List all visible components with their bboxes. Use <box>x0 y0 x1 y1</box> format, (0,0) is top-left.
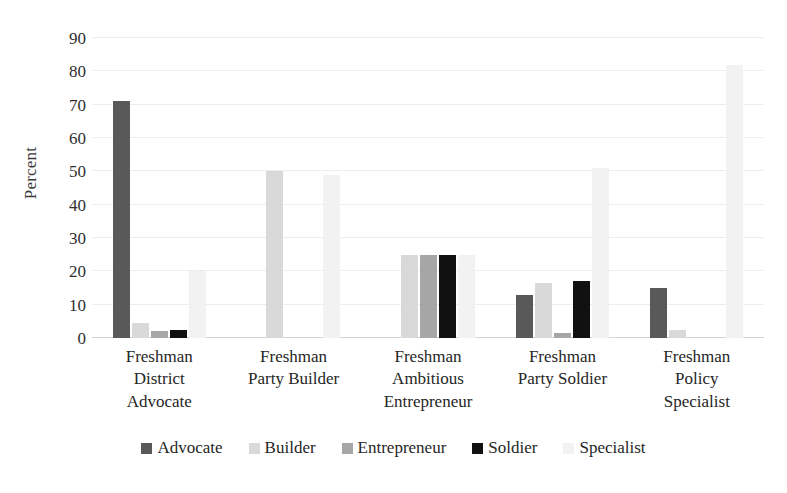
bar-slot <box>189 38 206 338</box>
y-axis-tick-label: 90 <box>69 30 86 47</box>
bar-builder[interactable] <box>132 323 149 338</box>
y-axis-tick-label: 80 <box>69 63 86 80</box>
legend-item-label: Advocate <box>157 438 222 458</box>
bar-slot <box>132 38 149 338</box>
bar-slot <box>382 38 399 338</box>
legend-item-specialist[interactable]: Specialist <box>563 438 645 458</box>
x-axis-category-label: FreshmanAmbitiousEntrepreneur <box>361 346 495 413</box>
bar-soldier[interactable] <box>170 330 187 338</box>
y-axis-tick-label: 10 <box>69 296 86 313</box>
bar-builder[interactable] <box>535 283 552 338</box>
plot-area <box>92 38 764 338</box>
bar-slot <box>170 38 187 338</box>
bar-slot <box>458 38 475 338</box>
legend-item-soldier[interactable]: Soldier <box>472 438 537 458</box>
bar-slot <box>420 38 437 338</box>
bar-slot <box>439 38 456 338</box>
legend-item-label: Entrepreneur <box>358 438 447 458</box>
x-axis-category-label: FreshmanParty Soldier <box>495 346 629 413</box>
x-axis-category-label-line: Freshman <box>632 346 762 368</box>
x-axis-category-label-line: Freshman <box>497 346 627 368</box>
bar-entrepreneur[interactable] <box>554 333 571 338</box>
bar-specialist[interactable] <box>458 255 475 338</box>
legend-item-entrepreneur[interactable]: Entrepreneur <box>342 438 447 458</box>
bar-cluster <box>361 38 495 338</box>
bar-chart: Percent 0102030405060708090 FreshmanDist… <box>0 0 787 493</box>
x-axis-category-label-line: Specialist <box>632 391 762 413</box>
legend-swatch-icon <box>249 443 260 454</box>
legend-item-label: Soldier <box>488 438 537 458</box>
bar-specialist[interactable] <box>726 65 743 338</box>
x-axis-category-label: FreshmanDistrictAdvocate <box>92 346 226 413</box>
y-axis-tick-label: 0 <box>78 330 87 347</box>
bar-slot <box>401 38 418 338</box>
y-axis-title-text: Percent <box>21 146 41 198</box>
bar-builder[interactable] <box>401 255 418 338</box>
bar-cluster <box>630 38 764 338</box>
bar-advocate[interactable] <box>516 295 533 338</box>
x-axis-category-label-line: Party Soldier <box>497 368 627 390</box>
x-axis-category-label-line: Freshman <box>363 346 493 368</box>
x-axis-category-label-line: Ambitious <box>363 368 493 390</box>
y-axis-tick-label: 70 <box>69 96 86 113</box>
bar-slot <box>669 38 686 338</box>
bar-entrepreneur[interactable] <box>151 331 168 338</box>
legend-swatch-icon <box>563 443 574 454</box>
legend-item-label: Builder <box>265 438 316 458</box>
y-axis-tick-label: 30 <box>69 230 86 247</box>
legend-item-advocate[interactable]: Advocate <box>141 438 222 458</box>
bar-cluster <box>495 38 629 338</box>
bar-specialist[interactable] <box>189 271 206 338</box>
bar-slot <box>573 38 590 338</box>
bar-specialist[interactable] <box>592 168 609 338</box>
x-axis-category-label-line: Advocate <box>94 391 224 413</box>
x-axis-category-label-line: Policy <box>632 368 762 390</box>
y-axis-tick-label: 50 <box>69 163 86 180</box>
bar-slot <box>304 38 321 338</box>
bar-slot <box>650 38 667 338</box>
bar-builder[interactable] <box>266 171 283 338</box>
bar-slot <box>535 38 552 338</box>
legend-swatch-icon <box>472 443 483 454</box>
bar-slot <box>592 38 609 338</box>
bar-cluster <box>226 38 360 338</box>
bar-slot <box>323 38 340 338</box>
x-axis-category-label-line: Freshman <box>228 346 358 368</box>
bar-slot <box>726 38 743 338</box>
bar-builder[interactable] <box>669 330 686 338</box>
x-axis-category-label: FreshmanPolicySpecialist <box>630 346 764 413</box>
bar-soldier[interactable] <box>573 281 590 338</box>
bar-slot <box>151 38 168 338</box>
bar-cluster <box>92 38 226 338</box>
x-axis-category-label-line: Freshman <box>94 346 224 368</box>
bar-slot <box>247 38 264 338</box>
legend-swatch-icon <box>141 443 152 454</box>
bar-clusters <box>92 38 764 338</box>
y-axis-tick-label: 40 <box>69 196 86 213</box>
x-axis-category-label: FreshmanParty Builder <box>226 346 360 413</box>
x-axis-category-labels: FreshmanDistrictAdvocateFreshmanParty Bu… <box>92 346 764 413</box>
bar-slot <box>516 38 533 338</box>
bar-slot <box>554 38 571 338</box>
x-axis-category-label-line: District <box>94 368 224 390</box>
x-axis-category-label-line: Entrepreneur <box>363 391 493 413</box>
y-axis-tick-label: 20 <box>69 263 86 280</box>
legend-item-label: Specialist <box>579 438 645 458</box>
y-axis-tick-label: 60 <box>69 130 86 147</box>
bar-entrepreneur[interactable] <box>420 255 437 338</box>
bar-soldier[interactable] <box>439 255 456 338</box>
bar-advocate[interactable] <box>113 101 130 338</box>
bar-advocate[interactable] <box>650 288 667 338</box>
chart-legend: AdvocateBuilderEntrepreneurSoldierSpecia… <box>0 438 787 458</box>
legend-swatch-icon <box>342 443 353 454</box>
bar-slot <box>688 38 705 338</box>
legend-item-builder[interactable]: Builder <box>249 438 316 458</box>
bar-slot <box>707 38 724 338</box>
bar-slot <box>113 38 130 338</box>
bar-slot <box>266 38 283 338</box>
x-axis-category-label-line: Party Builder <box>228 368 358 390</box>
y-axis-tick-labels: 0102030405060708090 <box>40 38 86 338</box>
bar-specialist[interactable] <box>323 175 340 338</box>
bar-slot <box>285 38 302 338</box>
